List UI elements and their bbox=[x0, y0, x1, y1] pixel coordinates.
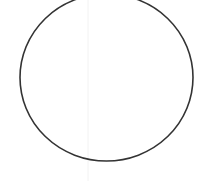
circle-outline bbox=[20, 0, 193, 161]
drawing-canvas bbox=[0, 0, 209, 181]
